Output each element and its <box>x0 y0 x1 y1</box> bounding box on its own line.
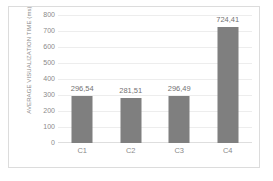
y-axis-tick-label: 800 <box>31 11 55 19</box>
x-axis-tick-label: C1 <box>77 146 87 156</box>
y-axis-tick-label: 700 <box>31 27 55 35</box>
y-axis-tick-label: 400 <box>31 75 55 83</box>
y-axis-tick-label: 100 <box>31 123 55 131</box>
x-axis-tick-labels: C1C2C3C4 <box>58 146 252 160</box>
bar-series: 296,54281,51296,49724,41 <box>58 15 252 143</box>
bar[interactable] <box>120 98 141 143</box>
x-axis-tick-label: C4 <box>223 146 233 156</box>
bar[interactable] <box>169 96 190 143</box>
bar-slot: 724,41 <box>204 15 253 143</box>
x-axis-tick-label: C2 <box>126 146 136 156</box>
y-axis-tick-label: 600 <box>31 43 55 51</box>
y-axis-tick-label: 0 <box>31 139 55 147</box>
bar-slot: 296,49 <box>155 15 204 143</box>
bar-slot: 281,51 <box>107 15 156 143</box>
y-axis-tick-label: 200 <box>31 107 55 115</box>
bar[interactable] <box>72 96 93 143</box>
bar[interactable] <box>217 27 238 143</box>
x-axis-tick-label: C3 <box>174 146 184 156</box>
y-axis-tick-label: 500 <box>31 59 55 67</box>
bar-value-label: 296,49 <box>168 84 191 93</box>
plot-area: 296,54281,51296,49724,41 <box>58 15 252 143</box>
chart-container: AVERAGE VISUALIZATION TIME (ms) 01002003… <box>8 6 260 168</box>
bar-value-label: 281,51 <box>119 86 142 95</box>
bar-slot: 296,54 <box>58 15 107 143</box>
bar-value-label: 724,41 <box>216 15 239 24</box>
y-axis-tick-label: 300 <box>31 91 55 99</box>
y-axis-tick-labels: 0100200300400500600700800 <box>31 15 57 143</box>
bar-value-label: 296,54 <box>71 84 94 93</box>
